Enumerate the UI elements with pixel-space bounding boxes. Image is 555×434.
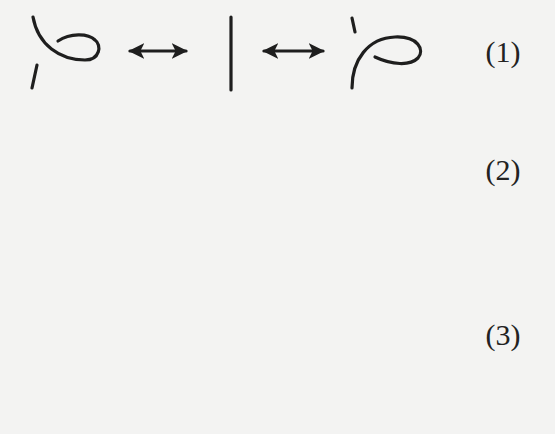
reidemeister-diagram [0, 0, 555, 434]
move-1-right-kink [352, 18, 421, 88]
move-1-left-kink [32, 17, 99, 88]
move-1-label: (1) [486, 35, 521, 69]
move-2-label: (2) [486, 153, 521, 187]
move-3-label: (3) [486, 318, 521, 352]
